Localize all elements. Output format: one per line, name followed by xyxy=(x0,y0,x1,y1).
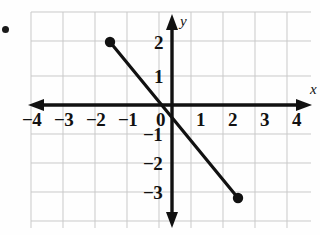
y-tick-label-neg3: −3 xyxy=(143,183,162,202)
y-tick-label-neg2: −2 xyxy=(143,154,162,173)
x-tick-label-1: 1 xyxy=(196,110,205,129)
y-tick-label-neg1: −1 xyxy=(143,125,162,144)
x-tick-label-neg3: −3 xyxy=(54,110,73,129)
y-tick-label-2: 2 xyxy=(154,33,163,52)
y-axis-top-arrowhead xyxy=(166,14,178,30)
y-axis-bottom-arrowhead xyxy=(166,212,178,228)
y-tick-label-1: 1 xyxy=(154,67,163,86)
y-axis-name-label: y xyxy=(180,14,187,29)
x-tick-label-3: 3 xyxy=(260,110,269,129)
x-tick-label-2: 2 xyxy=(228,110,237,129)
x-tick-label-4: 4 xyxy=(292,110,301,129)
x-tick-label-neg4: −4 xyxy=(22,110,41,129)
endpoint-marker-upper xyxy=(105,37,115,47)
x-axis-name-label: x xyxy=(310,82,317,97)
x-tick-label-neg1: −1 xyxy=(118,110,137,129)
x-tick-label-neg2: −2 xyxy=(86,110,105,129)
endpoint-marker-lower xyxy=(233,193,243,203)
graph-figure: −4 −3 −2 −1 0 1 2 3 4 2 1 −1 −2 −3 y x xyxy=(0,0,320,235)
